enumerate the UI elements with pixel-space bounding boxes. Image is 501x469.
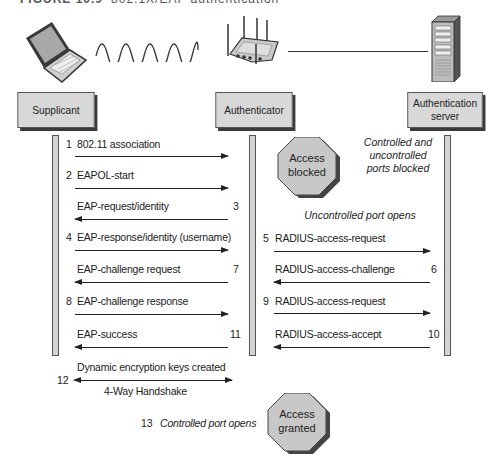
step-9-label: RADIUS-access-request — [275, 295, 385, 307]
step-1-label: 802.11 association — [77, 138, 160, 150]
step-13-number: 13 — [141, 417, 153, 429]
handshake-above-label: Dynamic encryption keys created — [77, 361, 225, 373]
wired-link-line — [288, 51, 428, 52]
step-8-number: 8 — [66, 295, 72, 307]
step-11-arrow-left — [75, 347, 228, 348]
step-11-number: 11 — [230, 328, 241, 340]
supplicant-lifeline — [52, 135, 59, 356]
step-5-label: RADIUS-access-request — [275, 232, 385, 244]
step-4-arrow-right — [75, 250, 228, 251]
step-9-arrow-right — [274, 313, 430, 314]
step-2-label: EAPOL-start — [77, 169, 134, 181]
supplicant-label: Supplicant — [32, 104, 79, 117]
access-granted-text: Accessgranted — [267, 407, 327, 435]
server-tower-icon — [428, 14, 462, 82]
figure-label: FIGURE 10.9 — [20, 0, 103, 6]
laptop-icon — [22, 20, 88, 84]
step-3-label: EAP-request/identity — [77, 200, 169, 212]
step-10-arrow-left — [274, 347, 430, 348]
supplicant-header: Supplicant — [17, 92, 94, 128]
step-5-arrow-right — [274, 251, 430, 252]
access-blocked-text: Accessblocked — [277, 151, 337, 179]
step-11-label: EAP-success — [77, 328, 137, 340]
step-2-arrow-right — [75, 188, 228, 189]
step-7-number: 7 — [233, 263, 239, 275]
step-3-number: 3 — [233, 200, 239, 212]
step-7-label: EAP-challenge request — [77, 263, 180, 275]
handshake-below-label: 4-Way Handshake — [104, 385, 187, 397]
step-9-number: 9 — [263, 295, 269, 307]
figure-caption: 802.1X/EAP authentication — [111, 0, 279, 6]
step-5-number: 5 — [263, 232, 269, 244]
step-2-number: 2 — [66, 169, 72, 181]
access-point-icon — [224, 14, 284, 66]
step-4-number: 4 — [66, 231, 72, 243]
handshake-arrow-bidirectional — [74, 380, 232, 381]
step-1-number: 1 — [66, 138, 72, 150]
authentication-server-header: Authenticationserver — [407, 92, 482, 128]
authenticator-header: Authenticator — [215, 92, 292, 128]
authenticator-label: Authenticator — [224, 104, 284, 117]
wireless-wave-icon — [94, 38, 202, 62]
step-3-arrow-left — [75, 219, 228, 220]
authenticator-lifeline — [249, 135, 256, 356]
access-blocked-octagon: Accessblocked — [277, 137, 339, 199]
step-7-arrow-left — [75, 282, 228, 283]
server-label: Authenticationserver — [413, 97, 477, 123]
step-6-label: RADIUS-access-challenge — [275, 263, 395, 275]
step-4-label: EAP-response/identity (username) — [77, 231, 231, 243]
step-10-label: RADIUS-access-accept — [275, 328, 381, 340]
step-6-arrow-left — [274, 282, 430, 283]
step-6-number: 6 — [431, 263, 437, 275]
step-12-number: 12 — [57, 374, 69, 386]
uncontrolled-port-opens-note: Uncontrolled port opens — [300, 209, 420, 222]
step-8-label: EAP-challenge response — [77, 295, 188, 307]
step-8-arrow-right — [75, 314, 228, 315]
access-granted-octagon: Accessgranted — [267, 393, 329, 455]
step-1-arrow-right — [75, 156, 228, 157]
controlled-port-opens-note: Controlled port opens — [160, 417, 256, 429]
ports-blocked-note: Controlled anduncontrolledports blocked — [348, 136, 448, 175]
step-10-number: 10 — [428, 328, 440, 340]
figure-title: FIGURE 10.9802.1X/EAP authentication — [20, 0, 279, 6]
